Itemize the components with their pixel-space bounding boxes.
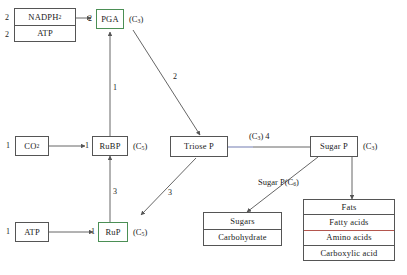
rup-count: 1 — [91, 228, 95, 236]
edge-label-rubp-to-pga: 1 — [113, 84, 117, 92]
pga-carbon-label: (C3) — [129, 15, 143, 24]
node-sugar-p[interactable]: Sugar P — [310, 136, 358, 157]
rubp-carbon-label: (C5) — [133, 142, 147, 151]
edge-label-sugarp-to-sugars: Sugar P(C6) — [258, 178, 299, 187]
products-row-fats: Fats — [304, 200, 394, 214]
cofactor-row-nadph: NADPH2 — [15, 9, 75, 25]
cofactor-count-atp: 2 — [5, 31, 9, 39]
co2-count: 1 — [6, 142, 10, 150]
node-pga[interactable]: PGA — [96, 9, 124, 29]
edge-triose-to-rup — [141, 158, 196, 215]
edge-pga-to-triose — [133, 30, 200, 135]
sugars-row-sugars: Sugars — [204, 213, 281, 229]
pga-label: PGA — [97, 10, 123, 28]
edge-label-pga-to-triose: 2 — [173, 73, 177, 81]
sugar-p-label: Sugar P — [311, 137, 357, 156]
atp-count: 1 — [6, 228, 10, 236]
edge-label-rup-to-rubp: 3 — [113, 188, 117, 196]
products-row-fatty-acids: Fatty acids — [304, 214, 394, 229]
cofactor-count-nadph: 2 — [5, 14, 9, 22]
rup-label: RuP — [99, 223, 127, 241]
rup-carbon-label: (C5) — [133, 228, 147, 237]
pga-count: 2 — [88, 15, 92, 23]
node-sugars-box[interactable]: Sugars Carbohydrate — [203, 212, 282, 246]
diagram-canvas: NADPH2 ATP 2 2 PGA 2 (C3) CO2 1 RuBP 1 (… — [0, 0, 407, 275]
co2-label: CO2 — [16, 137, 48, 155]
edge-label-triose-to-rup: 3 — [168, 189, 172, 197]
node-co2[interactable]: CO2 — [15, 136, 49, 156]
node-triose-p[interactable]: Triose P — [170, 136, 228, 157]
node-cofactors[interactable]: NADPH2 ATP — [14, 8, 76, 42]
sugars-row-carbohydrate: Carbohydrate — [204, 229, 281, 246]
node-rup[interactable]: RuP — [98, 222, 128, 242]
node-products-box[interactable]: Fats Fatty acids Amino acids Carboxylic … — [303, 199, 395, 261]
products-row-amino-acids: Amino acids — [304, 230, 394, 245]
node-atp[interactable]: ATP — [15, 222, 49, 242]
rubp-count: 1 — [85, 142, 89, 150]
atp-label: ATP — [16, 223, 48, 241]
cofactor-row-atp: ATP — [15, 25, 75, 42]
rubp-label: RuBP — [93, 137, 127, 155]
products-row-carboxylic-acid: Carboxylic acid — [304, 245, 394, 260]
triose-p-label: Triose P — [171, 137, 227, 156]
edge-label-triose-to-sugarp: (C3) 4 — [249, 132, 270, 141]
sugar-p-carbon-label: (C3) — [363, 142, 377, 151]
node-rubp[interactable]: RuBP — [92, 136, 128, 156]
